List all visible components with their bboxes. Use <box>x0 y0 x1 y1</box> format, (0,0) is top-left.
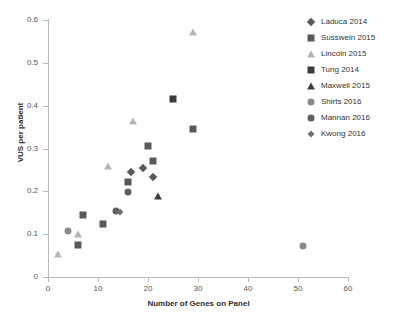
legend-marker-swatch <box>305 128 317 140</box>
data-point <box>170 96 177 103</box>
x-tick-mark <box>148 277 149 282</box>
legend-item-label: Maxwell 2015 <box>321 82 370 90</box>
legend-marker-swatch <box>305 48 317 60</box>
marker-diamond-small <box>307 130 314 137</box>
x-tick-label: 20 <box>133 285 163 293</box>
legend-item[interactable]: Mannan 2016 <box>305 110 393 126</box>
y-tick-label: 0.1 <box>0 230 38 238</box>
data-point <box>74 231 82 238</box>
chart-legend: Laduca 2014Susswein 2015Lincoln 2015Tung… <box>305 14 393 142</box>
marker-triangle <box>307 51 315 58</box>
legend-marker-swatch <box>305 32 317 44</box>
legend-item[interactable]: Susswein 2015 <box>305 30 393 46</box>
data-point <box>150 157 157 164</box>
legend-marker-swatch <box>305 64 317 76</box>
legend-item-label: Tung 2014 <box>321 66 359 74</box>
plot-area <box>48 20 348 277</box>
y-axis-title: VUS per patient <box>16 73 25 193</box>
x-tick-mark <box>348 277 349 282</box>
x-tick-mark <box>298 277 299 282</box>
data-point <box>100 221 107 228</box>
x-tick-mark <box>248 277 249 282</box>
x-axis-title: Number of Genes on Panel <box>48 299 349 308</box>
marker-circle-dark <box>308 115 315 122</box>
scatter-chart: 00.10.20.30.40.50.6 0102030405060 Number… <box>0 0 393 316</box>
x-tick-label: 30 <box>183 285 213 293</box>
y-tick-label: 0.5 <box>0 59 38 67</box>
legend-item-label: Laduca 2014 <box>321 18 367 26</box>
legend-item-label: Shirts 2016 <box>321 98 361 106</box>
data-point <box>300 243 307 250</box>
x-tick-label: 60 <box>333 285 363 293</box>
legend-item[interactable]: Laduca 2014 <box>305 14 393 30</box>
data-point <box>80 212 87 219</box>
legend-item[interactable]: Tung 2014 <box>305 62 393 78</box>
legend-item-label: Susswein 2015 <box>321 34 375 42</box>
marker-diamond <box>307 18 315 26</box>
x-tick-label: 50 <box>283 285 313 293</box>
legend-item-label: Mannan 2016 <box>321 114 370 122</box>
data-point <box>154 193 162 200</box>
x-tick-label: 10 <box>83 285 113 293</box>
data-point <box>104 163 112 170</box>
x-tick-label: 40 <box>233 285 263 293</box>
marker-triangle-dark <box>307 83 315 90</box>
legend-item-label: Kwong 2016 <box>321 130 365 138</box>
data-point <box>129 118 137 125</box>
x-tick-mark <box>198 277 199 282</box>
data-point <box>54 251 62 258</box>
legend-item[interactable]: Kwong 2016 <box>305 126 393 142</box>
marker-circle <box>308 99 315 106</box>
legend-item[interactable]: Lincoln 2015 <box>305 46 393 62</box>
legend-marker-swatch <box>305 96 317 108</box>
legend-item-label: Lincoln 2015 <box>321 50 366 58</box>
legend-marker-swatch <box>305 112 317 124</box>
data-point <box>190 125 197 132</box>
y-tick-label: 0 <box>0 273 38 281</box>
legend-marker-swatch <box>305 16 317 28</box>
y-tick-label: 0.6 <box>0 16 38 24</box>
data-point <box>125 188 132 195</box>
marker-square <box>308 35 315 42</box>
x-tick-mark <box>98 277 99 282</box>
marker-square-dark <box>308 67 315 74</box>
data-point <box>75 242 82 249</box>
x-tick-label: 0 <box>33 285 63 293</box>
data-point <box>145 143 152 150</box>
legend-item[interactable]: Shirts 2016 <box>305 94 393 110</box>
legend-marker-swatch <box>305 80 317 92</box>
x-tick-mark <box>48 277 49 282</box>
data-point <box>189 28 197 35</box>
data-point <box>65 227 72 234</box>
legend-item[interactable]: Maxwell 2015 <box>305 78 393 94</box>
data-point <box>125 179 132 186</box>
